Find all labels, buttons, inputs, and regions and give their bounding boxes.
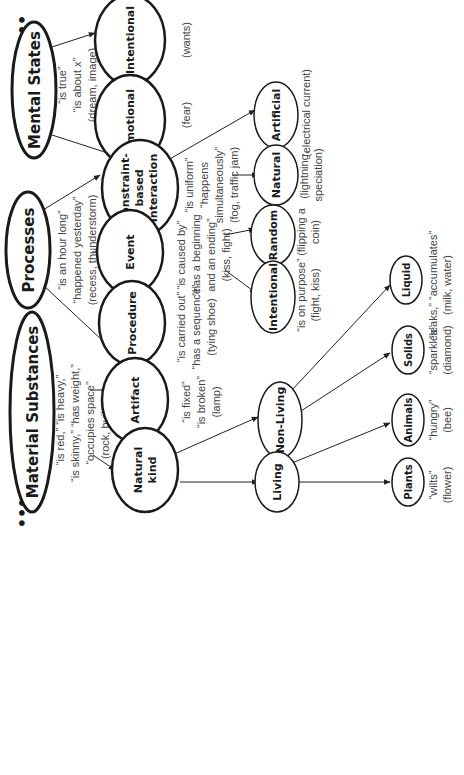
node-liquid: Liquid: [390, 256, 422, 304]
node-label: Natural: [132, 447, 145, 493]
note-line: (fight, kiss): [309, 268, 321, 321]
note-line: (lamp): [210, 386, 222, 417]
edge-mental-intentional: [52, 33, 95, 47]
node-label: Processes: [20, 208, 38, 293]
note-line: (tying shoe): [205, 298, 217, 355]
note-line: “is caused by”: [175, 220, 187, 289]
node-processes: Processes: [6, 192, 50, 308]
note-line: “has a beginning: [190, 214, 202, 295]
node-artificial: Artificial: [254, 82, 298, 148]
node-plants: Plants: [392, 458, 424, 506]
node-label: Intentional: [124, 6, 137, 74]
note-line: “occupies space”: [84, 381, 96, 464]
notes-processes: “is an hour long” “happened yesterday” (…: [56, 195, 98, 306]
notes-mental-states: “is true” “is about x” (dream, image): [56, 48, 98, 123]
note-line: (fear): [180, 102, 192, 128]
node-procedure: Procedure: [99, 281, 165, 365]
note-line: “happens: [198, 162, 210, 208]
note-line: (milk, water): [441, 255, 453, 315]
note-line: speciation): [312, 148, 324, 201]
node-animals: Animals: [392, 394, 424, 446]
note-line: “leaks,” “accumulates”: [427, 231, 439, 340]
node-natural-kind: Natural kind: [112, 428, 178, 512]
node-label: Mental States: [26, 31, 44, 149]
node-label: based: [133, 169, 146, 206]
note-line: “is uniform”: [183, 157, 195, 212]
node-label: Solids: [403, 333, 414, 367]
node-non-living: Non-Living: [258, 382, 302, 458]
note-line: (kiss, fight): [220, 228, 232, 281]
node-living: Living: [255, 452, 299, 512]
node-intentional-mental: Intentional: [95, 0, 165, 85]
note-line: “is an hour long”: [56, 210, 68, 290]
note-line: (fog, traffic jam): [228, 147, 240, 223]
node-label: Event: [124, 234, 137, 269]
edge-nonliving-solids: [298, 353, 390, 413]
note-line: “is about x”: [71, 57, 83, 112]
note-line: “is red,” “is heavy,”: [54, 375, 66, 466]
concept-map: ••• ••• Mental States “is true” “is abou…: [0, 0, 464, 775]
note-line: “has a sequence”: [190, 284, 202, 369]
note-line: “sparkles”: [427, 326, 439, 375]
note-line: (bee): [441, 407, 453, 433]
note-line: “is true”: [56, 66, 68, 104]
note-line: (flower): [441, 467, 453, 504]
note-line: coin): [309, 220, 321, 244]
note-line: “happened yesterday”: [71, 196, 83, 303]
node-intentional-event: Intentional: [251, 261, 295, 333]
note-line: “wilts”: [427, 470, 439, 499]
note-line: “is on purpose”: [295, 258, 307, 332]
node-label: Plants: [403, 464, 414, 499]
node-label: Material Substances: [24, 326, 42, 499]
node-label: Random: [267, 210, 280, 261]
node-label: Interaction: [147, 154, 160, 222]
notes-event: “is caused by” “has a beginning and an e…: [175, 214, 232, 295]
node-label: Liquid: [401, 263, 412, 298]
node-label: Living: [271, 463, 284, 500]
node-label: Natural: [270, 152, 283, 198]
note-line: (electrical current): [300, 69, 312, 157]
node-label: Artifact: [129, 377, 142, 424]
edge-living-animals: [292, 423, 390, 463]
node-natural-cbi: Natural: [254, 145, 298, 205]
notes-artifact: “is fixed” “is broken” (lamp): [180, 376, 222, 428]
note-line: “hungry”: [427, 399, 439, 440]
notes-constraint: “is uniform” “happens simultaneously” (f…: [183, 146, 240, 223]
node-label: Animals: [403, 398, 414, 443]
node-material-substances: Material Substances: [10, 312, 54, 512]
node-solids: Solids: [392, 326, 424, 374]
node-random: Random: [251, 205, 295, 265]
node-label: Artificial: [270, 89, 283, 142]
note-line: “is fixed”: [180, 381, 192, 423]
note-line: and an ending”: [205, 218, 217, 292]
note-line: (wants): [180, 22, 192, 58]
note-line: simultaneously”: [213, 146, 225, 223]
node-label: Non-Living: [274, 387, 287, 454]
note-line: “is broken”: [195, 376, 207, 428]
node-mental-states: Mental States: [12, 22, 56, 158]
node-label: Procedure: [126, 291, 139, 355]
node-label: kind: [146, 457, 159, 484]
concept-map-canvas: ••• ••• Mental States “is true” “is abou…: [0, 0, 464, 775]
notes-procedure: “is carried out” “has a sequence” (tying…: [175, 284, 217, 369]
notes-material-substances: “is red,” “is heavy,” “is skinny,” “has …: [54, 364, 111, 482]
note-line: (diamond): [441, 325, 453, 375]
note-line: (flipping a: [295, 207, 307, 256]
note-line: “is carried out”: [175, 292, 187, 363]
node-label: Intentional: [267, 263, 280, 331]
note-line: “is skinny,” “has weight,”: [69, 364, 81, 482]
note-line: (lightning,: [298, 151, 310, 199]
